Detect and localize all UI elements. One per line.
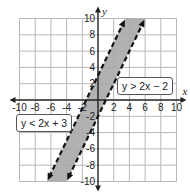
x-tick-label: 8	[158, 102, 164, 113]
x-tick-label: 4	[127, 102, 133, 113]
x-tick-label: 6	[142, 102, 148, 113]
x-tick-label: -10	[12, 102, 27, 113]
y-tick-label: 6	[89, 46, 95, 57]
x-tick-label: 2	[111, 102, 117, 113]
coordinate-plane: -10-8-6-4-2246810108642-2-4-6-8-10xy	[0, 0, 190, 193]
y-axis-arrow-down-icon	[95, 186, 101, 192]
y-tick-label: 10	[84, 13, 96, 24]
x-tick-label: -8	[31, 102, 40, 113]
x-tick-label: -4	[62, 102, 71, 113]
y-tick-label: -2	[86, 111, 95, 122]
y-tick-label: -6	[86, 143, 95, 154]
inequality-text-right: y > 2x − 2	[122, 80, 168, 92]
y-tick-label: -4	[86, 127, 95, 138]
y-axis-arrow-up-icon	[95, 7, 101, 13]
x-tick-label: 10	[171, 102, 183, 113]
x-tick-label: -6	[46, 102, 55, 113]
y-tick-label: -10	[81, 176, 96, 187]
y-tick-label: -8	[86, 160, 95, 171]
y-tick-label: 8	[89, 29, 95, 40]
y-tick-label: 2	[89, 78, 95, 89]
x-axis-label: x	[182, 85, 188, 97]
y-tick-label: 4	[89, 62, 95, 73]
inequality-label-left: y < 2x + 3	[16, 114, 72, 132]
inequality-label-right: y > 2x − 2	[117, 77, 173, 95]
y-axis-label: y	[101, 5, 107, 17]
inequality-text-left: y < 2x + 3	[21, 117, 67, 129]
